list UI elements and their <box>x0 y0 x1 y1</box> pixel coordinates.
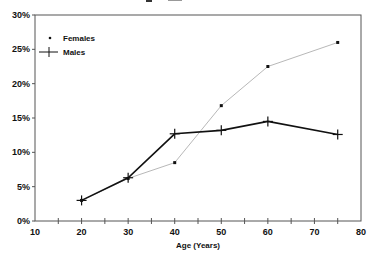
females-data-point <box>266 65 269 68</box>
x-tick-label: 40 <box>170 227 180 237</box>
males-data-point <box>263 116 273 126</box>
y-tick-label: 10% <box>12 147 30 157</box>
y-tick-label: 30% <box>12 10 30 20</box>
males-series-line <box>82 121 338 200</box>
males-markers <box>77 116 343 205</box>
plus-marker-icon <box>39 47 58 57</box>
x-tick-label: 30 <box>123 227 133 237</box>
x-tick-label: 20 <box>77 227 87 237</box>
legend: Females Males <box>39 34 96 57</box>
dot-marker-icon <box>49 37 52 40</box>
title-remnant <box>146 0 182 2</box>
legend-item-males: Males <box>39 47 86 57</box>
legend-item-females: Females <box>49 34 96 43</box>
y-axis: 0%5%10%15%20%25%30% <box>12 10 35 226</box>
x-tick-label: 70 <box>309 227 319 237</box>
y-tick-label: 5% <box>17 182 30 192</box>
males-data-point <box>77 195 87 205</box>
females-data-point <box>173 161 176 164</box>
females-markers <box>80 41 339 202</box>
males-data-point <box>333 129 343 139</box>
y-tick-label: 20% <box>12 79 30 89</box>
x-tick-label: 80 <box>356 227 366 237</box>
x-tick-label: 50 <box>216 227 226 237</box>
females-data-point <box>220 104 223 107</box>
y-tick-label: 0% <box>17 216 30 226</box>
plot-frame <box>35 15 361 221</box>
x-axis-title: Age (Years) <box>176 241 220 250</box>
females-data-point <box>336 41 339 44</box>
females-series-line <box>82 42 338 200</box>
x-tick-label: 60 <box>263 227 273 237</box>
y-tick-label: 15% <box>12 113 30 123</box>
legend-label-males: Males <box>63 48 86 57</box>
legend-label-females: Females <box>63 34 96 43</box>
males-data-point <box>216 125 226 135</box>
line-chart: 0%5%10%15%20%25%30% 1020304050607080 Age… <box>0 0 380 258</box>
x-tick-label: 10 <box>30 227 40 237</box>
y-tick-label: 25% <box>12 44 30 54</box>
